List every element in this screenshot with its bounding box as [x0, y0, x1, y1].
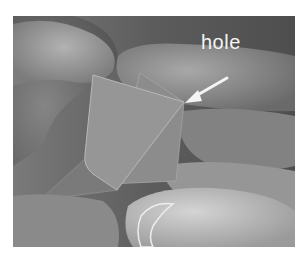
photograph — [13, 16, 295, 247]
annotation-label: hole — [201, 32, 241, 52]
left-palm — [13, 194, 119, 247]
